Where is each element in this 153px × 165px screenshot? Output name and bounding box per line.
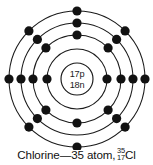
- electron-dot: [33, 114, 42, 123]
- atomic-number: 17: [117, 154, 125, 161]
- nucleus-circle: [61, 63, 93, 95]
- nucleus-proton-label: 17p: [70, 69, 85, 79]
- electron-dot: [121, 26, 130, 35]
- electron-dot: [140, 74, 149, 83]
- electron-dot: [72, 18, 81, 27]
- electron-dot: [41, 106, 50, 115]
- element-symbol: Cl: [125, 148, 136, 161]
- electron-dot: [72, 6, 81, 15]
- electron-dot: [112, 35, 121, 44]
- bohr-model-diagram: 17p 18n: [0, 0, 153, 150]
- electron-dot: [4, 74, 13, 83]
- electron-dot: [42, 74, 51, 83]
- isotope-numbers: 3517: [117, 147, 125, 161]
- caption-text: Chlorine—35 atom,: [17, 148, 115, 161]
- nucleus-neutron-label: 18n: [70, 80, 85, 90]
- electron-dot: [104, 43, 113, 52]
- electron-dot: [72, 30, 81, 39]
- electron-dot: [41, 43, 50, 52]
- electron-dot: [104, 106, 113, 115]
- electron-dot: [121, 123, 130, 132]
- electron-dot: [128, 74, 137, 83]
- electron-dot: [16, 74, 25, 83]
- electron-dot: [102, 74, 111, 83]
- electron-dot: [72, 118, 81, 127]
- electron-dot: [28, 74, 37, 83]
- atom-figure: 17p 18n: [0, 0, 153, 165]
- figure-caption: Chlorine—35 atom,3517Cl: [0, 147, 153, 161]
- electron-dot: [33, 35, 42, 44]
- electron-dot: [116, 74, 125, 83]
- electron-dot: [24, 123, 33, 132]
- electron-dot: [112, 114, 121, 123]
- isotope-notation: 3517Cl: [117, 147, 136, 161]
- electron-dot: [24, 26, 33, 35]
